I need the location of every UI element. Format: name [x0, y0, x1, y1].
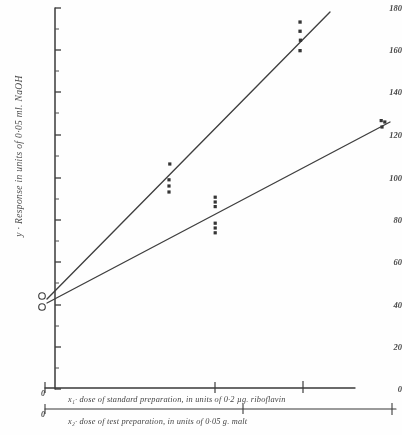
x-primary-origin-label: 0 — [41, 389, 45, 398]
x-axis-secondary-spine — [45, 403, 396, 415]
x-axis-primary-caption: x₁· dose of standard preparation, in uni… — [68, 395, 286, 404]
data-point-group-standard-mid — [167, 162, 171, 193]
x-secondary-origin-label: 0 — [41, 410, 45, 419]
regression-line-test — [47, 122, 390, 303]
data-point-group-controls — [39, 293, 46, 311]
x-axis-secondary-caption-text: x₂· dose of test preparation, in units o… — [68, 417, 247, 426]
data-point-group-standard-high — [298, 20, 302, 52]
plot-canvas — [0, 0, 402, 435]
x-axis-primary-spine — [45, 381, 355, 393]
x-axis-secondary-caption: x₂· dose of test preparation, in units o… — [68, 417, 247, 426]
regression-line-standard — [47, 12, 330, 299]
figure-riboflavin-dose-response: y · Response in units of 0·05 ml. NaOH 1… — [0, 0, 402, 435]
x-axis-primary-caption-text: x₁· dose of standard preparation, in uni… — [68, 395, 286, 404]
